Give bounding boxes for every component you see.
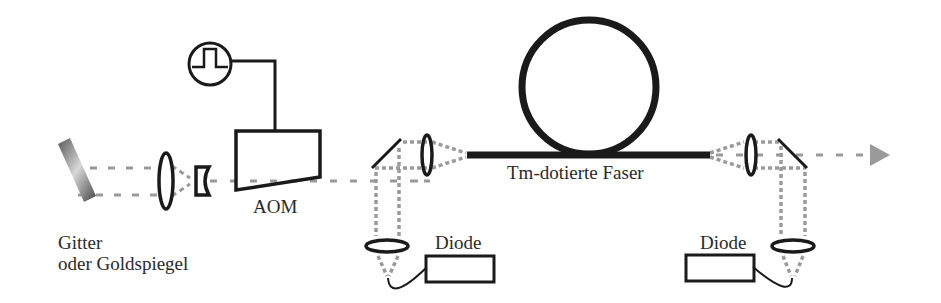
concave-lens-icon [196, 167, 209, 195]
grating-label-line1: Gitter [58, 232, 102, 254]
fiber-label: Tm-dotierte Faser [507, 162, 644, 184]
pump-diode-right-box [686, 255, 754, 281]
fiber-loop [522, 20, 656, 154]
pump-lens-left-icon [366, 240, 408, 252]
rf-cable [231, 61, 275, 130]
pulse-generator [189, 43, 275, 130]
coupling-lens-right-icon [746, 135, 756, 175]
pump-diode-left-box [426, 256, 494, 282]
grating-label-line2: oder Goldspiegel [58, 253, 188, 275]
diode-left-label: Diode [435, 232, 481, 254]
diode-right-label: Diode [700, 232, 746, 254]
pump-fiber-right [753, 267, 792, 287]
pump-lens-right-icon [772, 240, 814, 252]
dichroic-mirror-left-icon [372, 139, 401, 168]
aom-label: AOM [253, 196, 297, 218]
convex-lens-icon [159, 153, 173, 209]
pump-fiber-left [388, 268, 426, 288]
output-arrow-icon [870, 144, 890, 166]
grating-mirror-icon [58, 138, 96, 202]
aom-body [236, 131, 320, 190]
